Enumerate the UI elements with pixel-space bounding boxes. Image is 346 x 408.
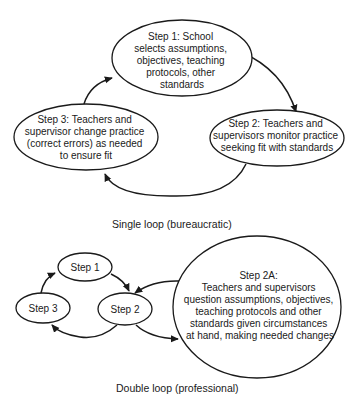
node-step2a: Step 2A: Teachers and supervisors questi…	[173, 236, 341, 378]
single-loop: Step 1: School selects assumptions, obje…	[14, 20, 344, 230]
node-step3: Step 3: Teachers and supervisor change p…	[14, 104, 158, 170]
node-step2: Step 2: Teachers and supervisors monitor…	[210, 110, 344, 166]
single-loop-caption: Single loop (bureaucratic)	[112, 218, 232, 230]
arrow-step2a-to-step2	[135, 281, 180, 293]
arrow-dl-step3-to-step1	[41, 273, 55, 293]
arrow-dl-step1-to-step2	[111, 274, 129, 291]
node-dl-step1: Step 1	[58, 253, 112, 281]
dl-step2-label: Step 2	[111, 304, 140, 315]
arrow-step3-to-step1	[84, 78, 112, 104]
arrow-step2-to-step2a	[136, 325, 178, 339]
double-loop: Step 1 Step 3 Step 2 Step 2A: Teachers a…	[16, 236, 341, 394]
dl-step3-label: Step 3	[29, 303, 58, 314]
step2-text: Step 2: Teachers and supervisors monitor…	[213, 118, 341, 153]
node-dl-step3: Step 3	[16, 293, 70, 323]
node-step1: Step 1: School selects assumptions, obje…	[112, 20, 252, 96]
node-dl-step2: Step 2	[98, 293, 152, 325]
arrow-step2-to-step3	[105, 164, 246, 196]
feedback-loop-diagram: Step 1: School selects assumptions, obje…	[0, 0, 346, 408]
double-loop-caption: Double loop (professional)	[116, 382, 239, 394]
arrow-dl-step2-to-step3	[52, 325, 117, 338]
dl-step1-label: Step 1	[71, 262, 100, 273]
